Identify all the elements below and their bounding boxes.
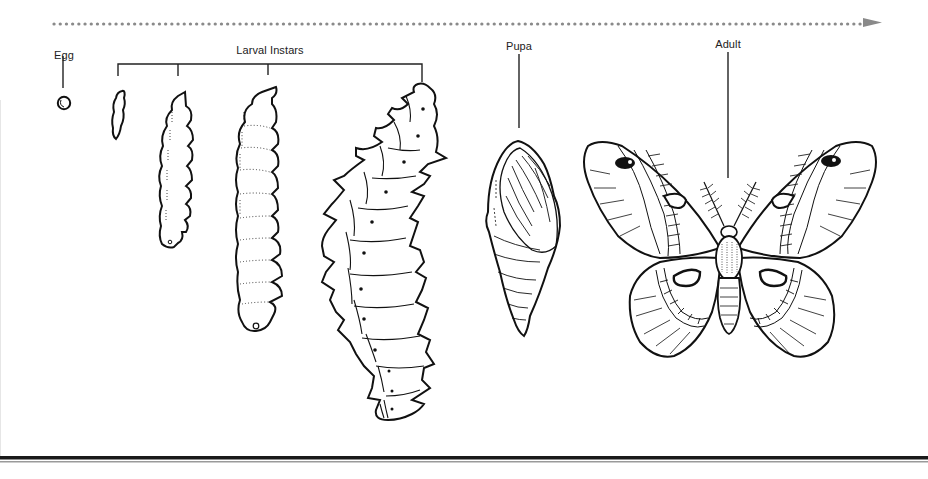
stage-label-adult: Adult — [715, 38, 741, 50]
antennae — [704, 182, 756, 226]
pupa-illustration — [486, 141, 560, 336]
stage-label-egg: Egg — [54, 49, 74, 61]
stage-label-larval-instars: Larval Instars — [236, 44, 303, 56]
thorax — [716, 236, 742, 280]
larva-instar-2 — [159, 92, 193, 248]
stage-label-pupa: Pupa — [506, 40, 532, 52]
larva-instar-4 — [322, 84, 446, 421]
arrowhead-icon — [863, 18, 882, 27]
diagram-artwork — [0, 0, 928, 479]
larva-instar-3 — [236, 87, 282, 331]
adult-moth-illustration — [584, 142, 876, 357]
larval-bracket — [118, 64, 422, 82]
forewing-eyespot — [615, 157, 635, 169]
larva-instar-1 — [112, 91, 125, 139]
life-cycle-diagram: Egg Larval Instars Pupa Adult — [0, 0, 928, 479]
egg-illustration — [58, 97, 70, 109]
timeline-arrow — [54, 18, 882, 27]
